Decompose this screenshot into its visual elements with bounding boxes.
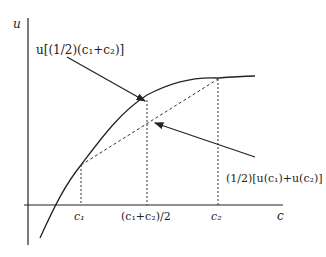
tick-label-c1: c₁ [74,210,85,223]
utility-of-mean-label: u[(1/2)(c₁+c₂)] [36,43,124,57]
mean-of-utility-arrow [155,123,255,157]
mean-of-utility-label: (1/2)[u(c₁)+u(c₂)] [226,172,323,185]
tick-label-mid: (c₁+c₂)/2 [121,210,171,223]
x-axis-label: c [277,209,284,223]
utility-diagram: u c c₁ (c₁+c₂)/2 c₂ u[(1/2)(c₁+c₂)] (1/2… [0,0,326,257]
chord-line [81,79,218,165]
tick-label-c2: c₂ [211,210,222,223]
y-axis-label: u [13,17,21,31]
utility-of-mean-arrow [67,57,145,101]
